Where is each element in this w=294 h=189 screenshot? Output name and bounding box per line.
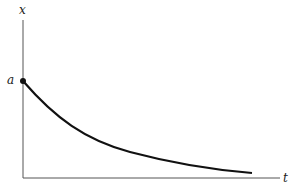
initial-point-dot bbox=[20, 78, 26, 84]
decay-graph: x a t bbox=[0, 0, 294, 189]
decay-curve bbox=[23, 81, 252, 173]
x-axis-label: t bbox=[283, 171, 288, 185]
intercept-label: a bbox=[7, 73, 14, 87]
y-axis-label: x bbox=[19, 3, 26, 17]
